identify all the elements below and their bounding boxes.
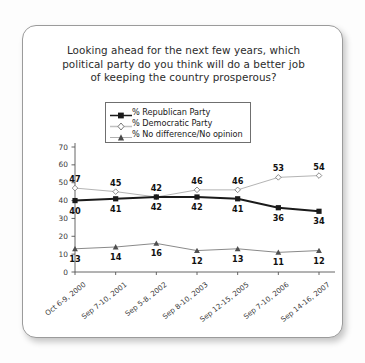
data-point-label: 13 [69,254,80,264]
data-point-label: 34 [313,216,324,226]
y-axis-tick-label: 70 [52,143,68,152]
y-axis-tick-label: 60 [52,160,68,169]
y-axis-tick-label: 40 [52,196,68,205]
data-point-label: 12 [313,256,324,266]
data-point-label: 47 [69,174,80,184]
y-axis-tick-label: 20 [52,232,68,241]
chart-card: Looking ahead for the next few years, wh… [22,25,343,338]
data-point-label: 46 [232,176,243,186]
y-axis-tick-label: 0 [52,268,68,277]
y-axis-tick-label: 50 [52,178,68,187]
data-point-label: 54 [313,162,324,172]
data-point-label: 36 [273,213,284,223]
y-axis-tick-label: 30 [52,214,68,223]
data-point-label: 41 [110,204,121,214]
data-point-label: 42 [151,183,162,193]
data-point-label: 42 [191,202,202,212]
data-point-label: 46 [191,176,202,186]
chart-plot-area: 010203040506070Oct 6-9, 2000Sep 7-10, 20… [23,26,343,338]
screenshot-root: Looking ahead for the next few years, wh… [0,0,365,363]
data-point-label: 14 [110,252,121,262]
data-point-label: 12 [191,256,202,266]
data-point-label: 11 [273,257,284,267]
y-axis-tick-label: 10 [52,250,68,259]
data-point-label: 41 [232,204,243,214]
data-point-label: 53 [273,163,284,173]
data-point-label: 40 [69,206,80,216]
data-point-label: 42 [151,202,162,212]
data-point-label: 45 [110,178,121,188]
data-point-label: 16 [151,248,162,258]
data-point-label: 13 [232,254,243,264]
